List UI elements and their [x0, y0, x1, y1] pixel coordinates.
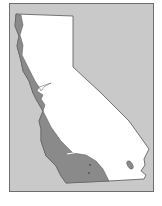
map-frame: [9, 3, 154, 192]
region-speck: [88, 172, 90, 174]
region-speck: [89, 164, 91, 166]
california-map: [10, 4, 154, 192]
